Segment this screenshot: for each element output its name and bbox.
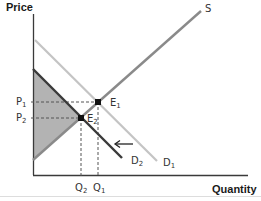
shaded-surplus-region (33, 69, 81, 160)
q1-label: Q1 (93, 182, 105, 195)
p2-label: P2 (16, 112, 27, 125)
supply-demand-diagram: Price Quantity S D2 D1 E1 E2 P1 P2 Q2 Q1 (0, 0, 261, 201)
y-axis-label: Price (6, 1, 33, 13)
e1-label: E1 (110, 97, 121, 110)
equilibrium-point-e1 (95, 99, 101, 105)
equilibrium-point-e2 (78, 115, 84, 121)
supply-label: S (205, 3, 211, 14)
left-arrow-icon (115, 141, 133, 148)
demand-d2-label: D2 (131, 155, 143, 168)
x-axis-label: Quantity (212, 183, 257, 195)
q2-label: Q2 (75, 182, 87, 195)
supply-curve (33, 11, 201, 160)
p1-label: P1 (16, 96, 27, 109)
demand-d1-label: D1 (163, 157, 175, 170)
